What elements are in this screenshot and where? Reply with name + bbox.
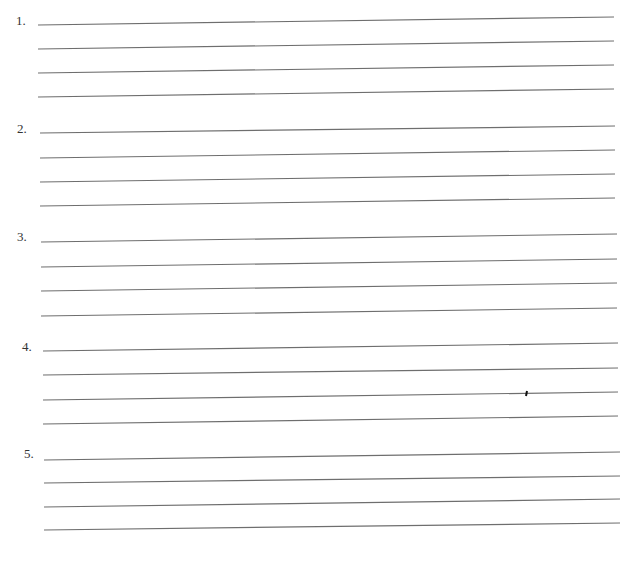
answer-line-1-4 [38, 89, 614, 97]
answer-line-5-3 [44, 499, 620, 507]
answer-line-2-1 [40, 126, 615, 133]
stray-pen-mark [526, 391, 527, 396]
answer-line-4-3 [43, 392, 618, 400]
answer-lines [0, 0, 636, 563]
answer-line-2-4 [40, 198, 615, 206]
answer-line-4-4 [43, 416, 618, 424]
answer-line-3-1 [41, 234, 617, 242]
answer-line-1-1 [38, 17, 614, 25]
answer-line-5-2 [44, 476, 620, 483]
answer-line-5-4 [44, 523, 620, 530]
answer-line-5-1 [44, 452, 620, 460]
answer-line-1-3 [38, 65, 614, 73]
answer-line-4-1 [43, 343, 618, 351]
answer-line-3-2 [41, 259, 617, 267]
answer-line-3-3 [41, 283, 617, 291]
answer-line-2-2 [40, 150, 615, 158]
answer-line-3-4 [41, 308, 617, 316]
answer-line-4-2 [43, 368, 618, 375]
answer-line-2-3 [40, 174, 615, 182]
answer-line-1-2 [38, 41, 614, 49]
